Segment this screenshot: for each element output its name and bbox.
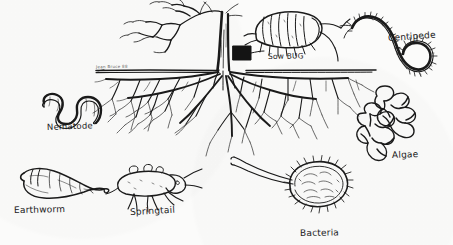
tree (93, 0, 374, 156)
organism-bacteria (231, 156, 353, 214)
trunk-marker (233, 46, 264, 60)
artist-signature: Jean Bruce 88 (96, 64, 128, 70)
organism-earthworm (21, 169, 109, 199)
label-nematode: Nematode (47, 120, 93, 132)
label-bacteria: Bacteria (300, 227, 339, 238)
tree-trunk (213, 12, 235, 90)
soil-ecosystem-figure: Nematode Earthworm Springtail Bacteria S… (0, 0, 453, 245)
label-sow-bug: Sow BUG (268, 51, 304, 61)
organism-centipede (340, 12, 437, 77)
label-algae: Algae (392, 149, 419, 160)
tree-branches (139, 4, 222, 52)
tree-roots (93, 72, 374, 156)
label-earthworm: Earthworm (14, 204, 65, 215)
algae-filament-lower (357, 103, 395, 161)
